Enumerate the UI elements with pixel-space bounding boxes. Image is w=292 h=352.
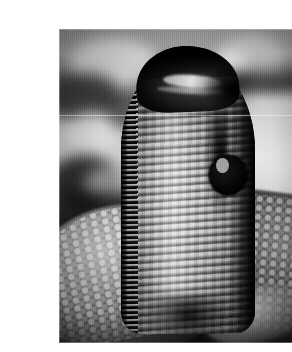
page-root: Black and white photograph of a cobra re… [0, 0, 292, 352]
photo-canvas [59, 29, 292, 343]
photo-vignette [59, 29, 292, 343]
photograph: Black and white photograph of a cobra re… [59, 29, 292, 343]
